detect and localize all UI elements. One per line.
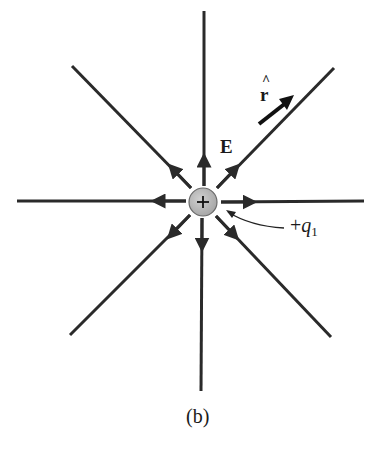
- figure-caption: (b): [186, 405, 209, 428]
- charge-label: +q1: [290, 214, 318, 240]
- field-label-E: E: [220, 136, 233, 158]
- charge-sign: +: [290, 214, 301, 236]
- unit-vector-label: r: [260, 84, 268, 106]
- charge-var: q: [301, 214, 311, 236]
- charge-subscript: 1: [311, 224, 318, 239]
- charge-pointer-arrow: [228, 212, 284, 228]
- field-diagram: [0, 0, 381, 449]
